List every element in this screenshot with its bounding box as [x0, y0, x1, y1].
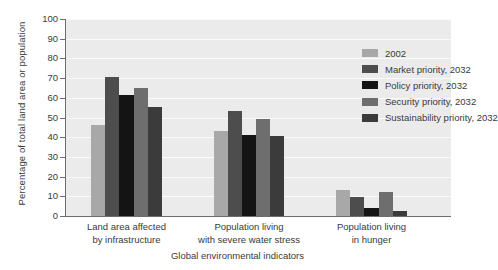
- legend-item[interactable]: 2002: [362, 45, 498, 61]
- y-axis-tick-label: 70: [32, 73, 58, 83]
- legend-label: Market priority, 2032: [385, 64, 471, 75]
- y-axis-tick-label: 90: [32, 34, 58, 44]
- category-label-line: in hunger: [287, 234, 457, 247]
- chart-legend: 2002Market priority, 2032Policy priority…: [362, 45, 498, 126]
- legend-label: Policy priority, 2032: [385, 80, 467, 91]
- y-axis-tick-label: 100: [32, 14, 58, 24]
- legend-swatch-icon: [362, 49, 378, 57]
- y-axis-tick-label: 50: [32, 113, 58, 123]
- bar: [364, 208, 378, 216]
- x-axis-category-label: Population livingin hunger: [287, 221, 457, 246]
- bar: [270, 136, 284, 216]
- bar-group: [214, 19, 285, 216]
- bar: [336, 190, 350, 216]
- legend-label: 2002: [385, 48, 406, 59]
- y-axis-tick-label: 60: [32, 93, 58, 103]
- legend-item[interactable]: Policy priority, 2032: [362, 77, 498, 93]
- y-axis-tick-mark: [60, 58, 65, 59]
- y-axis-line: [65, 19, 66, 217]
- y-axis-tick-label: 10: [32, 191, 58, 201]
- bar: [228, 111, 242, 216]
- legend-swatch-icon: [362, 114, 378, 122]
- bar: [91, 125, 105, 216]
- y-axis-tick-mark: [60, 118, 65, 119]
- bar: [242, 135, 256, 216]
- y-axis-tick-label: 40: [32, 132, 58, 142]
- x-axis-title: Global environmental indicators: [0, 250, 475, 261]
- bar: [105, 77, 119, 216]
- y-axis-tick-mark: [60, 78, 65, 79]
- category-label-line: Population living: [287, 221, 457, 234]
- x-axis-line: [65, 216, 451, 217]
- y-axis-tick-mark: [60, 137, 65, 138]
- legend-label: Security priority, 2032: [385, 96, 476, 107]
- y-axis-tick-label: 80: [32, 53, 58, 63]
- y-axis-tick-mark: [60, 157, 65, 158]
- bar-group: [91, 19, 162, 216]
- legend-label: Sustainability priority, 2032: [385, 112, 498, 123]
- legend-swatch-icon: [362, 65, 378, 73]
- plot-area: 2002Market priority, 2032Policy priority…: [66, 19, 451, 216]
- bar: [148, 107, 162, 216]
- y-axis-tick-mark: [60, 216, 65, 217]
- y-axis-tick-label: 30: [32, 152, 58, 162]
- y-axis-tick-label: 20: [32, 172, 58, 182]
- bar: [379, 192, 393, 216]
- legend-item[interactable]: Security priority, 2032: [362, 94, 498, 110]
- y-axis-tick-mark: [60, 98, 65, 99]
- legend-item[interactable]: Market priority, 2032: [362, 61, 498, 77]
- y-axis-tick-mark: [60, 196, 65, 197]
- y-axis-tick-mark: [60, 19, 65, 20]
- y-axis-title: Percentage of total land area or populat…: [16, 9, 27, 219]
- y-axis-tick-mark: [60, 177, 65, 178]
- y-axis-tick-mark: [60, 39, 65, 40]
- legend-swatch-icon: [362, 98, 378, 106]
- y-axis-tick-label: 0: [32, 211, 58, 221]
- legend-item[interactable]: Sustainability priority, 2032: [362, 110, 498, 126]
- legend-swatch-icon: [362, 81, 378, 89]
- bar: [134, 88, 148, 216]
- bar: [256, 119, 270, 217]
- bar: [350, 197, 364, 216]
- bar: [119, 95, 133, 216]
- bar: [214, 131, 228, 216]
